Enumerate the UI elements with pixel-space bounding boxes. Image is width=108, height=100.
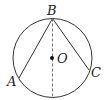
label-c: C (91, 65, 101, 80)
circle-diagram: B A C O (0, 0, 108, 100)
label-o: O (57, 51, 68, 66)
label-a: A (6, 74, 16, 89)
label-b: B (46, 3, 57, 18)
center-point-o (50, 56, 54, 60)
chord-ba (19, 19, 53, 79)
